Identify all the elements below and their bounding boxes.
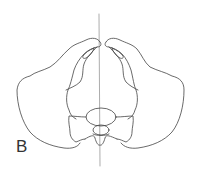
- left-ilium-outline: [17, 38, 100, 148]
- midline: [99, 14, 100, 166]
- right-ilium-outline: [106, 38, 184, 148]
- pelvis-diagram: [0, 0, 199, 173]
- vertebral-body: [86, 108, 116, 126]
- left-transverse-process: [69, 116, 86, 142]
- figure-label: B: [16, 138, 27, 155]
- lower-vertebra: [93, 125, 109, 135]
- coccyx-base: [85, 136, 117, 145]
- right-transverse-process: [116, 116, 133, 142]
- left-sacral-wing: [67, 42, 101, 119]
